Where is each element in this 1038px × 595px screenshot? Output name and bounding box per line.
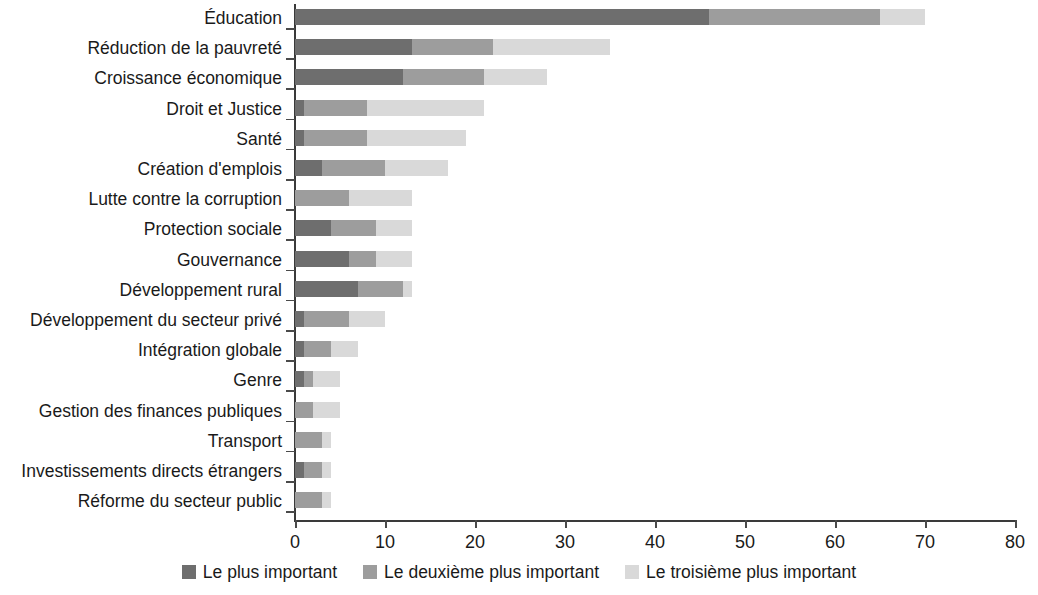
bar-segment	[295, 341, 304, 357]
category-label: Création d'emplois	[0, 159, 282, 179]
category-label: Croissance économique	[0, 68, 282, 88]
x-axis-tick	[745, 520, 747, 528]
x-axis-tick	[835, 520, 837, 528]
bar-segment	[295, 371, 304, 387]
y-axis-tick	[286, 300, 295, 302]
x-axis-tick	[565, 520, 567, 528]
bar-segment	[331, 220, 376, 236]
legend-item[interactable]: Le deuxième plus important	[363, 562, 599, 582]
bar-segment	[304, 100, 367, 116]
y-axis-tick	[286, 239, 295, 241]
x-axis-tick	[475, 520, 477, 528]
x-axis-tick-label: 70	[895, 531, 955, 553]
y-axis-tick	[286, 179, 295, 181]
bar-segment	[412, 39, 493, 55]
y-axis-tick	[286, 511, 295, 513]
bar-segment	[367, 130, 466, 146]
x-axis-tick-label: 60	[805, 531, 865, 553]
category-label: Réduction de la pauvreté	[0, 38, 282, 58]
x-axis-tick	[655, 520, 657, 528]
bar-segment	[403, 281, 412, 297]
y-axis-tick	[286, 360, 295, 362]
x-axis-tick-label: 40	[625, 531, 685, 553]
plot-area	[295, 4, 1015, 520]
bar-segment	[493, 39, 610, 55]
category-label: Lutte contre la corruption	[0, 189, 282, 209]
bar-segment	[295, 39, 412, 55]
bar-segment	[484, 69, 547, 85]
bar-segment	[295, 160, 322, 176]
x-axis-tick	[925, 520, 927, 528]
bar-segment	[331, 341, 358, 357]
y-axis-tick	[286, 28, 295, 30]
bar-segment	[295, 9, 709, 25]
bar-segment	[304, 341, 331, 357]
legend-swatch-icon	[625, 565, 639, 579]
legend-item[interactable]: Le troisième plus important	[625, 562, 856, 582]
x-axis-tick-label: 10	[355, 531, 415, 553]
bar-segment	[295, 220, 331, 236]
bar-segment	[322, 462, 331, 478]
bar-segment	[295, 130, 304, 146]
x-axis-tick	[1015, 520, 1017, 528]
bar-segment	[304, 371, 313, 387]
bar-segment	[385, 160, 448, 176]
category-label: Protection sociale	[0, 219, 282, 239]
bar-segment	[322, 432, 331, 448]
category-axis: ÉducationRéduction de la pauvretéCroissa…	[0, 4, 290, 520]
bar-segment	[295, 402, 313, 418]
bar-segment	[376, 220, 412, 236]
y-axis-tick	[286, 58, 295, 60]
category-label: Gestion des finances publiques	[0, 401, 282, 421]
category-label: Transport	[0, 431, 282, 451]
bar-segment	[295, 462, 304, 478]
y-axis-tick	[286, 481, 295, 483]
y-axis-tick	[286, 330, 295, 332]
category-label: Gouvernance	[0, 250, 282, 270]
bar-segment	[709, 9, 880, 25]
x-axis-tick-label: 20	[445, 531, 505, 553]
bar-segment	[295, 100, 304, 116]
y-axis-tick	[286, 88, 295, 90]
bar-segment	[313, 402, 340, 418]
y-axis-tick	[286, 149, 295, 151]
bar-segment	[295, 251, 349, 267]
legend-label: Le troisième plus important	[646, 562, 856, 582]
y-axis-tick	[286, 119, 295, 121]
x-axis-tick-label: 50	[715, 531, 775, 553]
bar-segment	[403, 69, 484, 85]
x-axis-tick-label: 0	[265, 531, 325, 553]
bar-segment	[304, 130, 367, 146]
bar-segment	[295, 190, 349, 206]
legend-item[interactable]: Le plus important	[182, 562, 337, 582]
bar-segment	[295, 281, 358, 297]
bar-segment	[349, 311, 385, 327]
bar-segment	[322, 160, 385, 176]
legend-label: Le plus important	[203, 562, 337, 582]
category-label: Développement rural	[0, 280, 282, 300]
category-label: Droit et Justice	[0, 99, 282, 119]
y-axis-tick	[286, 451, 295, 453]
x-axis-tick	[385, 520, 387, 528]
legend-swatch-icon	[182, 565, 196, 579]
category-label: Santé	[0, 129, 282, 149]
category-label: Réforme du secteur public	[0, 491, 282, 511]
bar-segment	[313, 371, 340, 387]
category-label: Intégration globale	[0, 340, 282, 360]
horizontal-stacked-bar-chart: ÉducationRéduction de la pauvretéCroissa…	[0, 0, 1038, 595]
x-axis-tick-label: 80	[985, 531, 1038, 553]
x-axis-tick-label: 30	[535, 531, 595, 553]
category-label: Investissements directs étrangers	[0, 461, 282, 481]
y-axis-tick	[286, 209, 295, 211]
chart-legend: Le plus importantLe deuxième plus import…	[0, 562, 1038, 582]
category-label: Développement du secteur privé	[0, 310, 282, 330]
bar-segment	[376, 251, 412, 267]
bar-segment	[295, 432, 322, 448]
bar-segment	[367, 100, 484, 116]
bar-segment	[880, 9, 925, 25]
bar-segment	[358, 281, 403, 297]
bar-segment	[295, 492, 322, 508]
bar-segment	[295, 69, 403, 85]
bar-segment	[295, 311, 304, 327]
y-axis-tick	[286, 390, 295, 392]
